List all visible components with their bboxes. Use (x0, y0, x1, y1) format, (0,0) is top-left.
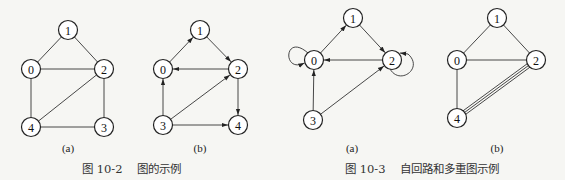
figure-10-3-a-self-loop-graph: 1023(a) (289, 9, 414, 156)
graph-node-1: 1 (191, 21, 210, 40)
graph-node-2: 2 (527, 51, 546, 70)
caption-text: 图的示例 (137, 162, 181, 176)
svg-text:2: 2 (389, 54, 395, 68)
edge-1-2-arrow (359, 25, 385, 53)
edge-1-2 (503, 25, 529, 53)
graph-node-4: 4 (448, 109, 467, 128)
edge-0-1 (464, 25, 491, 53)
svg-text:3: 3 (101, 121, 107, 135)
graph-node-4: 4 (229, 116, 248, 135)
multi-edge-2-4 (463, 64, 527, 111)
svg-text:3: 3 (160, 119, 166, 133)
svg-text:1: 1 (350, 12, 356, 26)
svg-text:1: 1 (494, 12, 500, 26)
graph-node-3: 3 (154, 116, 173, 135)
svg-text:4: 4 (454, 112, 460, 126)
svg-text:3: 3 (310, 114, 316, 128)
graph-node-0: 0 (305, 51, 324, 70)
svg-text:1: 1 (197, 24, 203, 38)
edge-0-1 (38, 37, 62, 62)
graph-node-2: 2 (383, 51, 402, 70)
svg-text:4: 4 (28, 121, 34, 135)
graph-node-3: 3 (304, 111, 323, 130)
figure-10-2-a-undirected-graph: 10243(a) (22, 21, 114, 156)
graph-node-0: 0 (154, 60, 173, 79)
edge-1-2-arrow (207, 37, 231, 62)
edge-3-2-arrow (321, 66, 384, 114)
svg-text:0: 0 (311, 54, 317, 68)
svg-text:0: 0 (160, 63, 166, 77)
multi-edge-2-4 (464, 65, 528, 112)
subfigure-label: (a) (62, 142, 75, 155)
subfigure-label: (b) (491, 142, 504, 155)
svg-text:4: 4 (235, 119, 241, 133)
subfigure-label: (b) (194, 142, 207, 155)
edge-0-1-arrow (170, 37, 194, 62)
caption-text: 自回路和多重图示例 (400, 162, 499, 176)
svg-text:0: 0 (454, 54, 460, 68)
graph-node-0: 0 (448, 51, 467, 70)
figure-10-3-b-multigraph: 1024(b) (448, 9, 546, 156)
multi-edge-2-4 (466, 67, 530, 114)
figure-10-2-b-directed-graph: 10234(b) (154, 21, 248, 156)
edge-1-2 (74, 37, 97, 62)
graph-node-1: 1 (344, 9, 363, 28)
edge-3-2-arrow (171, 75, 230, 119)
diagram-canvas: 10243(a) 10234(b) 1023(a) 1024(b) (0, 0, 565, 180)
caption-figure-10-3: 图 10-3自回路和多重图示例 (345, 160, 499, 176)
graph-node-4: 4 (22, 118, 41, 137)
svg-text:0: 0 (28, 63, 34, 77)
svg-text:2: 2 (533, 54, 539, 68)
svg-text:2: 2 (235, 63, 241, 77)
subfigure-label: (a) (346, 142, 359, 155)
svg-text:2: 2 (101, 63, 107, 77)
caption-number: 图 10-2 (82, 162, 123, 176)
graph-node-2: 2 (229, 60, 248, 79)
graph-node-0: 0 (22, 60, 41, 79)
edge-0-1-arrow (320, 25, 346, 53)
edge-2-4 (38, 75, 96, 121)
caption-figure-10-2: 图 10-2图的示例 (82, 160, 181, 176)
svg-text:1: 1 (65, 24, 71, 38)
graph-node-1: 1 (488, 9, 507, 28)
caption-number: 图 10-3 (345, 162, 386, 176)
edge-3-0-arrow (313, 70, 314, 111)
graph-node-1: 1 (59, 21, 78, 40)
graph-node-2: 2 (95, 60, 114, 79)
graph-node-3: 3 (95, 118, 114, 137)
